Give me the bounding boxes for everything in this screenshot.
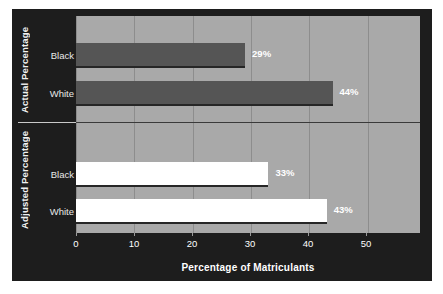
group-label-actual-percentage: Actual Percentage <box>14 17 34 123</box>
bar-actual-black <box>76 43 245 68</box>
x-tick-label-40: 40 <box>296 238 320 249</box>
x-axis-title: Percentage of Matriculants <box>76 262 420 273</box>
x-tick-label-10: 10 <box>122 238 146 249</box>
tick-mark-20 <box>192 233 193 236</box>
chart-panel: Actual Percentage Black White Adjusted P… <box>12 9 432 281</box>
category-label-actual-white: White <box>36 88 74 99</box>
category-label-adjusted-white: White <box>36 206 74 217</box>
tick-mark-50 <box>366 233 367 236</box>
plot-area: 29% 44% 33% 43% <box>76 16 420 233</box>
x-tick-label-0: 0 <box>64 238 88 249</box>
category-label-actual-black: Black <box>36 50 74 61</box>
bar-value-adjusted-black: 33% <box>275 167 294 178</box>
x-tick-label-20: 20 <box>180 238 204 249</box>
plot-section-divider <box>76 122 420 123</box>
gridline-50 <box>368 16 369 233</box>
bar-value-actual-black: 29% <box>252 48 271 59</box>
bar-actual-white <box>76 81 333 106</box>
x-tick-label-50: 50 <box>354 238 378 249</box>
tick-mark-30 <box>250 233 251 236</box>
bar-adjusted-white <box>76 199 327 224</box>
category-label-adjusted-black: Black <box>36 169 74 180</box>
group-label-adjusted-percentage: Adjusted Percentage <box>14 127 34 233</box>
tick-mark-10 <box>134 233 135 236</box>
bar-value-actual-white: 44% <box>340 86 359 97</box>
bar-adjusted-black <box>76 162 268 187</box>
tick-mark-0 <box>76 233 77 236</box>
bar-value-adjusted-white: 43% <box>334 204 353 215</box>
chart-figure: Actual Percentage Black White Adjusted P… <box>0 0 443 294</box>
group-divider <box>18 122 76 123</box>
tick-mark-40 <box>308 233 309 236</box>
x-tick-label-30: 30 <box>238 238 262 249</box>
